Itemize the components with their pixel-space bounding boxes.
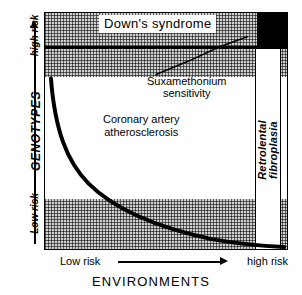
x-axis: Low risk high risk bbox=[44, 254, 288, 272]
y-axis: high risk Low risk GENOTYPES bbox=[26, 12, 42, 250]
suxamethonium-line1: Suxamethonium bbox=[147, 75, 227, 87]
coronary-artery-atherosclerosis-label: Coronary artery atherosclerosis bbox=[103, 113, 179, 139]
suxamethonium-line2: sensitivity bbox=[147, 87, 227, 99]
x-axis-line bbox=[118, 261, 222, 263]
coronary-line2: atherosclerosis bbox=[103, 126, 179, 139]
x-axis-high-risk-label: high risk bbox=[247, 255, 288, 267]
risk-genotype-environment-figure: Retrolental fibroplasia Down's syndrome … bbox=[0, 0, 302, 295]
coronary-line1: Coronary artery bbox=[103, 113, 179, 126]
y-axis-high-risk-label: high risk bbox=[29, 12, 40, 60]
plot-area: Retrolental fibroplasia Down's syndrome … bbox=[44, 12, 288, 250]
x-axis-arrowhead-icon bbox=[220, 257, 228, 265]
x-axis-title: ENVIRONMENTS bbox=[0, 274, 302, 289]
downs-syndrome-label: Down's syndrome bbox=[99, 15, 216, 33]
suxamethonium-leader-line bbox=[156, 37, 247, 75]
suxamethonium-sensitivity-label: Suxamethonium sensitivity bbox=[147, 75, 227, 99]
y-axis-low-risk-label: Low risk bbox=[29, 190, 40, 238]
y-axis-title: GENOTYPES bbox=[29, 85, 43, 177]
x-axis-low-risk-label: Low risk bbox=[60, 255, 100, 267]
